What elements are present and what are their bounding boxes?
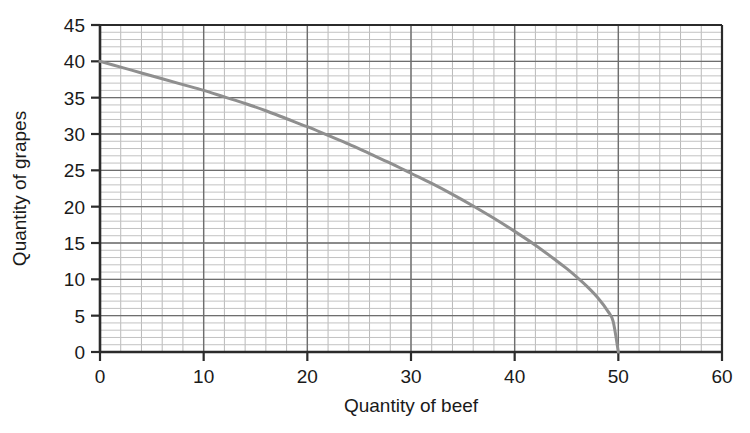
- y-tick-label: 30: [64, 124, 85, 145]
- x-tick-label: 30: [400, 366, 421, 387]
- y-axis-title: Quantity of grapes: [9, 111, 30, 266]
- x-tick-label: 20: [297, 366, 318, 387]
- y-tick-label: 0: [74, 342, 85, 363]
- x-tick-label: 50: [608, 366, 629, 387]
- y-axis-ticks: [91, 25, 100, 352]
- x-tick-label: 40: [504, 366, 525, 387]
- major-gridlines: [100, 25, 722, 352]
- chart-page: 0102030405060 051015202530354045 Quantit…: [0, 0, 750, 433]
- y-tick-label: 25: [64, 160, 85, 181]
- y-tick-label: 35: [64, 88, 85, 109]
- y-tick-label: 10: [64, 269, 85, 290]
- ppf-chart: 0102030405060 051015202530354045 Quantit…: [0, 0, 750, 433]
- y-tick-label: 40: [64, 51, 85, 72]
- x-axis-ticks: [100, 352, 722, 361]
- y-tick-label: 45: [64, 15, 85, 36]
- x-axis-tick-labels: 0102030405060: [95, 366, 733, 387]
- y-tick-label: 15: [64, 233, 85, 254]
- y-tick-label: 5: [74, 306, 85, 327]
- x-tick-label: 60: [711, 366, 732, 387]
- y-tick-label: 20: [64, 197, 85, 218]
- x-tick-label: 0: [95, 366, 106, 387]
- x-tick-label: 10: [193, 366, 214, 387]
- y-axis-tick-labels: 051015202530354045: [64, 15, 85, 363]
- x-axis-title: Quantity of beef: [344, 395, 479, 416]
